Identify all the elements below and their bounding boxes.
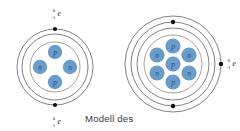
- electron-dot: [53, 103, 57, 107]
- electron-dot: [53, 27, 57, 31]
- electron-mass-number: 0: [53, 8, 56, 13]
- electron-dot: [171, 20, 175, 24]
- electron-charge-number: -1: [52, 15, 57, 20]
- left-atom-group: p n n p 0 -1 e 0 -1 e: [17, 8, 93, 128]
- electron-mass-number: 0: [53, 116, 56, 121]
- electron-mass-number: 0: [228, 58, 231, 63]
- electron-charge-number: -1: [227, 65, 232, 70]
- proton-label: p: [52, 48, 57, 57]
- atom-models-figure: p n n p 0 -1 e 0 -1 e: [0, 0, 240, 131]
- figure-caption: Modell des: [85, 113, 133, 124]
- neutron-label: n: [38, 63, 42, 72]
- neutron-label: n: [155, 51, 159, 60]
- left-atom-bottom-electron-label: 0 -1 e: [52, 116, 62, 128]
- atom-diagram-svg: p n n p 0 -1 e 0 -1 e: [0, 0, 240, 131]
- proton-label: p: [170, 78, 175, 87]
- neutron-label: n: [187, 69, 191, 78]
- electron-symbol: e: [58, 117, 62, 126]
- electron-dot: [171, 104, 175, 108]
- left-atom-top-electron-label: 0 -1 e: [52, 8, 62, 20]
- electron-symbol: e: [233, 59, 237, 68]
- electron-symbol: e: [58, 9, 62, 18]
- proton-label: p: [52, 78, 57, 87]
- proton-label: p: [170, 60, 175, 69]
- neutron-label: n: [187, 51, 191, 60]
- right-atom-group: p n n p n n p 0 -1: [125, 16, 237, 112]
- neutron-label: n: [155, 69, 159, 78]
- electron-dot: [219, 62, 223, 66]
- neutron-label: n: [68, 63, 72, 72]
- proton-label: p: [170, 42, 175, 51]
- electron-charge-number: -1: [52, 123, 57, 128]
- right-atom-electron-label: 0 -1 e: [227, 58, 237, 70]
